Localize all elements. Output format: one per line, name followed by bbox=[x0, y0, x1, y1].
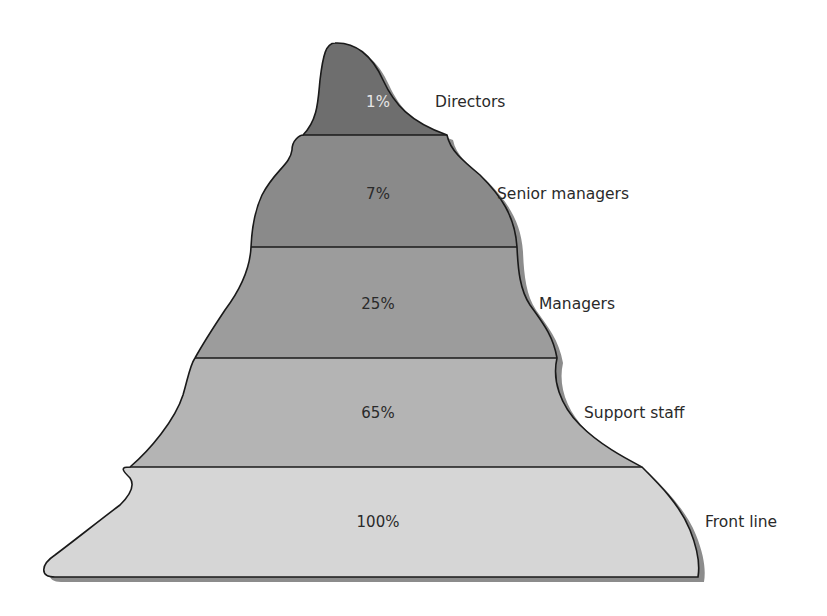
band-managers bbox=[0, 247, 827, 358]
band-directors bbox=[0, 0, 827, 135]
label-senior-managers: Senior managers bbox=[497, 185, 629, 203]
band-front-line bbox=[0, 467, 827, 616]
band-senior-managers bbox=[0, 135, 827, 247]
percent-support-staff: 65% bbox=[361, 404, 394, 422]
pyramid-diagram: 1% 7% 25% 65% 100% Directors Senior mana… bbox=[0, 0, 827, 616]
label-front-line: Front line bbox=[705, 513, 777, 531]
percent-senior-managers: 7% bbox=[366, 185, 390, 203]
percent-front-line: 100% bbox=[357, 513, 400, 531]
label-managers: Managers bbox=[539, 295, 615, 313]
label-directors: Directors bbox=[435, 93, 505, 111]
band-support-staff bbox=[0, 358, 827, 467]
percent-directors: 1% bbox=[366, 93, 390, 111]
label-support-staff: Support staff bbox=[584, 404, 685, 422]
percent-managers: 25% bbox=[361, 295, 394, 313]
